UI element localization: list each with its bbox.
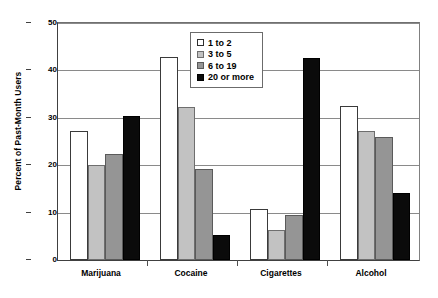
legend-label-3-to-5: 3 to 5: [208, 49, 232, 59]
bar-cigarettes-6-to-19: [285, 215, 303, 261]
y-tick-mark-40: [26, 69, 31, 70]
bar-group-alcohol: [328, 23, 418, 260]
legend-swatch-icon-20-or-more: [197, 74, 204, 81]
bar-cigarettes-20-or-more: [303, 58, 321, 260]
bar-marijuana-3-to-5: [88, 165, 106, 260]
y-tick-mark-50: [26, 22, 31, 23]
bar-marijuana-20-or-more: [123, 116, 141, 260]
y-axis-title-text: Percent of Past-Month Users: [13, 72, 23, 191]
x-axis-separator-2: [237, 260, 238, 266]
legend-item-1-to-2: 1 to 2: [197, 37, 254, 49]
y-tick-mark-30: [26, 117, 31, 118]
bar-cocaine-1-to-2: [160, 57, 178, 260]
bar-alcohol-6-to-19: [375, 137, 393, 260]
bar-marijuana-1-to-2: [70, 131, 88, 260]
category-label-cocaine: Cocaine: [174, 268, 207, 278]
legend-item-20-or-more: 20 or more: [197, 72, 254, 84]
legend-swatch-icon-1-to-2: [197, 39, 204, 46]
y-tick-label-30: 30: [33, 112, 57, 121]
legend-label-1-to-2: 1 to 2: [208, 38, 232, 48]
chart-legend: 1 to 2 3 to 5 6 to 19 20 or more: [190, 32, 263, 88]
y-tick-label-0: 0: [33, 255, 57, 264]
x-axis-separator-1: [147, 260, 148, 266]
y-tick-mark-20: [26, 164, 31, 165]
y-tick-mark-0: [26, 259, 31, 260]
category-label-cigarettes: Cigarettes: [260, 268, 302, 278]
category-label-marijuana: Marijuana: [81, 268, 121, 278]
bar-alcohol-1-to-2: [340, 106, 358, 260]
y-axis-ticks: 0 10 20 30 40 50: [26, 0, 57, 298]
y-axis-title: Percent of Past-Month Users: [10, 0, 26, 262]
y-tick-mark-10: [26, 212, 31, 213]
bar-group-marijuana: [58, 23, 148, 260]
x-axis-separator-3: [327, 260, 328, 266]
bar-cocaine-3-to-5: [178, 107, 196, 260]
bar-marijuana-6-to-19: [105, 154, 123, 260]
category-label-alcohol: Alcohol: [355, 268, 386, 278]
bar-alcohol-20-or-more: [393, 193, 411, 260]
bar-cigarettes-1-to-2: [250, 209, 268, 260]
legend-swatch-icon-3-to-5: [197, 51, 204, 58]
bar-chart-figure: Percent of Past-Month Users 0 10 20 30 4…: [0, 0, 438, 298]
legend-label-20-or-more: 20 or more: [208, 72, 254, 82]
bar-cigarettes-3-to-5: [268, 230, 286, 260]
bar-alcohol-3-to-5: [358, 131, 376, 260]
y-tick-label-50: 50: [33, 18, 57, 27]
legend-item-6-to-19: 6 to 19: [197, 60, 254, 72]
bar-cocaine-6-to-19: [195, 169, 213, 260]
y-tick-label-20: 20: [33, 160, 57, 169]
y-tick-label-40: 40: [33, 65, 57, 74]
y-tick-label-10: 10: [33, 207, 57, 216]
legend-swatch-icon-6-to-19: [197, 62, 204, 69]
legend-item-3-to-5: 3 to 5: [197, 49, 254, 61]
bar-cocaine-20-or-more: [213, 235, 231, 260]
legend-label-6-to-19: 6 to 19: [208, 61, 237, 71]
